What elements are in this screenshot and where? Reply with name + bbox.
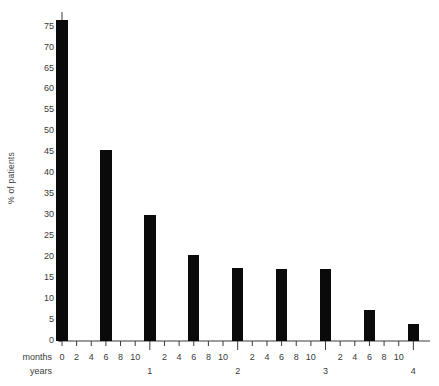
y-tick-label: 65 [28,63,54,73]
x-year-tick-label: 4 [404,366,422,376]
x-month-tick-label: 10 [302,352,320,362]
y-tick-label: 55 [28,104,54,114]
y-tick-label: 25 [28,230,54,240]
bar [364,310,375,341]
bar-chart: % of patients months years 0510152025303… [0,0,439,386]
bar [408,324,419,341]
bar [188,255,199,341]
y-tick-label: 30 [28,209,54,219]
y-tick-label: 20 [28,251,54,261]
x-month-tick-label: 10 [390,352,408,362]
y-tick-label: 10 [28,293,54,303]
y-tick-label: 5 [28,314,54,324]
y-tick-label: 15 [28,272,54,282]
bar [144,215,155,341]
x-year-tick-label: 1 [141,366,159,376]
axis-lines [58,12,430,350]
y-tick-label: 0 [28,335,54,345]
bar [276,269,287,341]
y-tick-label: 35 [28,188,54,198]
x-year-tick-label: 2 [229,366,247,376]
y-tick-label: 45 [28,146,54,156]
x-month-tick-label: 10 [126,352,144,362]
y-tick-label: 50 [28,125,54,135]
y-tick-label: 60 [28,83,54,93]
bar [100,150,111,341]
x-month-tick-label: 10 [214,352,232,362]
y-tick-label: 40 [28,167,54,177]
bar [232,268,243,341]
bar [56,20,67,341]
x-year-tick-label: 3 [317,366,335,376]
bar [320,269,331,341]
y-tick-label: 70 [28,42,54,52]
y-tick-label: 75 [28,21,54,31]
